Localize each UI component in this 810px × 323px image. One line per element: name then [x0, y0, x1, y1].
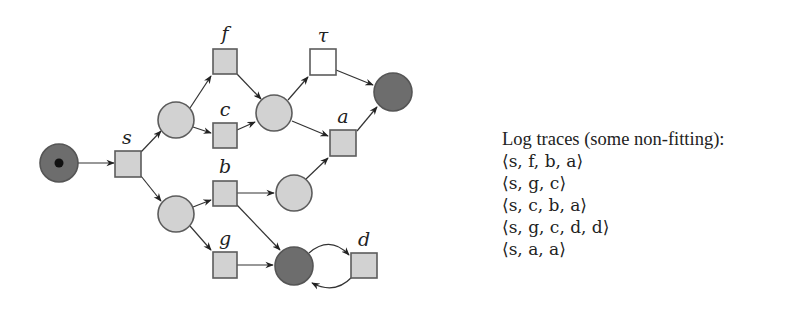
transition-d — [351, 253, 377, 278]
log-trace: ⟨s, g, c⟩ — [502, 172, 724, 194]
transition-b — [213, 181, 237, 206]
arc-f-to-p3 — [237, 74, 261, 99]
arc-tau-to-end — [336, 70, 373, 85]
transition-a — [330, 130, 356, 156]
place-p2 — [158, 196, 194, 232]
arc-p1-to-c — [193, 127, 211, 133]
label-b: b — [219, 155, 231, 177]
arc-s-to-p1 — [141, 131, 161, 152]
arc-p3-to-a — [292, 121, 328, 136]
arc-p3-to-tau — [288, 77, 308, 100]
place-loop — [275, 247, 313, 285]
arc-loop-to-d — [309, 244, 349, 255]
arc-p2-to-b — [193, 200, 211, 207]
label-g: g — [219, 227, 231, 249]
transition-tau — [310, 49, 336, 75]
token-icon — [55, 159, 64, 168]
label-a: a — [337, 105, 348, 127]
label-s: s — [122, 126, 132, 148]
log-trace: ⟨s, a, a⟩ — [502, 238, 724, 260]
label-d: d — [358, 228, 370, 250]
place-p1 — [158, 102, 194, 138]
log-title: Log traces (some non-fitting): — [502, 128, 724, 150]
transition-f — [213, 49, 237, 74]
place-end — [374, 73, 412, 111]
label-tau: τ — [318, 24, 329, 46]
arc-s-to-p2 — [141, 176, 161, 201]
log-traces-panel: Log traces (some non-fitting): ⟨s, f, b,… — [502, 128, 724, 260]
label-f: f — [219, 22, 231, 44]
log-trace: ⟨s, f, b, a⟩ — [502, 150, 724, 172]
arc-d-to-loop — [312, 277, 352, 288]
place-p4 — [276, 175, 312, 211]
arc-p4-to-a — [306, 158, 328, 179]
place-p3 — [256, 95, 292, 131]
transition-g — [213, 252, 237, 278]
transition-c — [213, 123, 237, 148]
log-trace: ⟨s, g, c, d, d⟩ — [502, 216, 724, 238]
arc-b-to-loop — [237, 205, 280, 250]
arc-a-to-end — [357, 107, 377, 131]
arc-c-to-p3 — [237, 122, 255, 130]
arc-p1-to-f — [190, 76, 211, 108]
log-trace: ⟨s, c, b, a⟩ — [502, 194, 724, 216]
label-c: c — [220, 98, 231, 120]
transition-s — [115, 151, 141, 177]
arc-p2-to-g — [190, 226, 211, 250]
